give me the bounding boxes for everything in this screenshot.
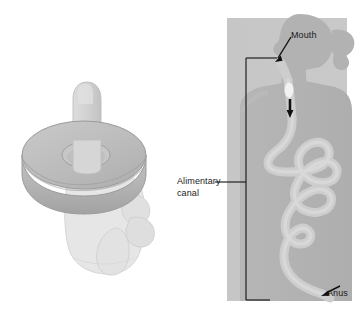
label-alimentary-canal: Alimentary canal (177, 176, 237, 199)
finger-through-hole (73, 140, 101, 174)
finger-roll-2 (126, 217, 154, 247)
label-mouth: Mouth (291, 30, 317, 41)
body-panel-group (215, 14, 354, 301)
label-anus: Anus (327, 288, 348, 299)
finger-nail-highlight (78, 84, 93, 104)
figure-root: Mouth Alimentary canal Anus (0, 0, 364, 322)
food-bolus (285, 83, 294, 98)
alimentary-canal-illustration (0, 0, 364, 322)
hand-donut-group (22, 82, 154, 275)
